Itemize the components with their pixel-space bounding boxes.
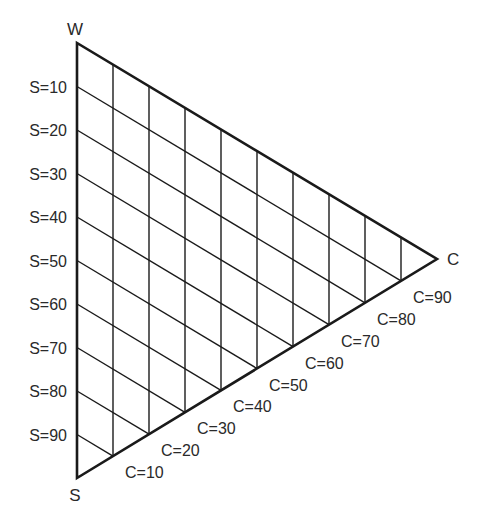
vertex-label-c: C xyxy=(447,250,459,269)
s-axis-label: S=80 xyxy=(29,383,67,400)
s-axis-label: S=30 xyxy=(29,166,67,183)
c-axis-label: C=10 xyxy=(125,464,164,481)
s-grid-line xyxy=(77,174,329,325)
vertex-label-s: S xyxy=(69,486,80,505)
c-axis-label: C=60 xyxy=(305,355,344,372)
c-axis-labels: C=10C=20C=30C=40C=50C=60C=70C=80C=90 xyxy=(125,289,452,481)
s-axis-label: S=40 xyxy=(29,209,67,226)
s-axis-label: S=60 xyxy=(29,296,67,313)
grid-lines xyxy=(77,65,401,457)
s-axis-labels: S=10S=20S=30S=40S=50S=60S=70S=80S=90 xyxy=(29,79,67,444)
s-grid-line xyxy=(77,435,113,457)
s-axis-label: S=20 xyxy=(29,122,67,139)
s-grid-line xyxy=(77,261,257,369)
s-axis-label: S=50 xyxy=(29,253,67,270)
c-axis-label: C=50 xyxy=(269,377,308,394)
c-axis-label: C=40 xyxy=(233,398,272,415)
vertex-label-w: W xyxy=(67,20,83,39)
c-axis-label: C=90 xyxy=(413,289,452,306)
s-axis-label: S=90 xyxy=(29,427,67,444)
s-grid-line xyxy=(77,87,401,281)
s-axis-label: S=10 xyxy=(29,79,67,96)
c-axis-label: C=20 xyxy=(161,442,200,459)
c-axis-label: C=80 xyxy=(377,311,416,328)
c-axis-label: C=70 xyxy=(341,333,380,350)
s-grid-line xyxy=(77,348,185,413)
s-axis-label: S=70 xyxy=(29,340,67,357)
c-axis-label: C=30 xyxy=(197,420,236,437)
ternary-diagram: W S C S=10S=20S=30S=40S=50S=60S=70S=80S=… xyxy=(0,0,479,513)
